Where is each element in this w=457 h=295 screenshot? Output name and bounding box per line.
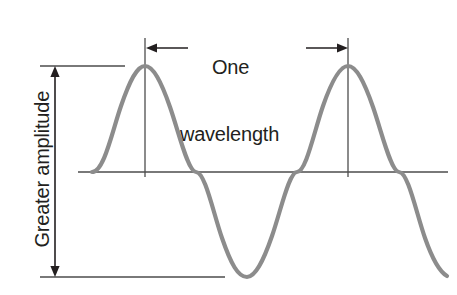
amplitude-label: Greater amplitude (31, 54, 53, 284)
wavelength-label-line2: wavelength (2, 123, 457, 145)
wavelength-label-line1: One (4, 56, 457, 78)
wavelength-label: One wavelength (0, 11, 457, 190)
wave-diagram-figure: One wavelength Greater amplitude (0, 0, 457, 295)
